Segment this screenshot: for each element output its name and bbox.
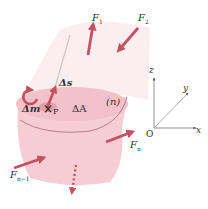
label-delta-m: Δm — [22, 104, 40, 114]
label-delta-s: Δs — [59, 78, 72, 88]
label-region-n: (n) — [106, 97, 120, 107]
y-axis — [154, 93, 188, 128]
label-point-p: P — [53, 108, 58, 116]
axis-label-x: x — [196, 126, 201, 135]
axis-label-z: z — [149, 66, 154, 75]
axis-label-y: y — [183, 84, 188, 93]
label-delta-a: ΔA — [72, 104, 86, 114]
diagram: F1 F2 Δs Δm × P ΔA (n) Fn Fn−1 z y x O — [0, 0, 208, 209]
label-fn: Fn — [130, 140, 141, 152]
label-fn-1: Fn−1 — [10, 170, 30, 182]
point-marker: × — [43, 103, 53, 115]
label-f1: F1 — [92, 13, 103, 25]
axis-origin: O — [146, 130, 153, 139]
label-f2: F2 — [138, 13, 149, 25]
